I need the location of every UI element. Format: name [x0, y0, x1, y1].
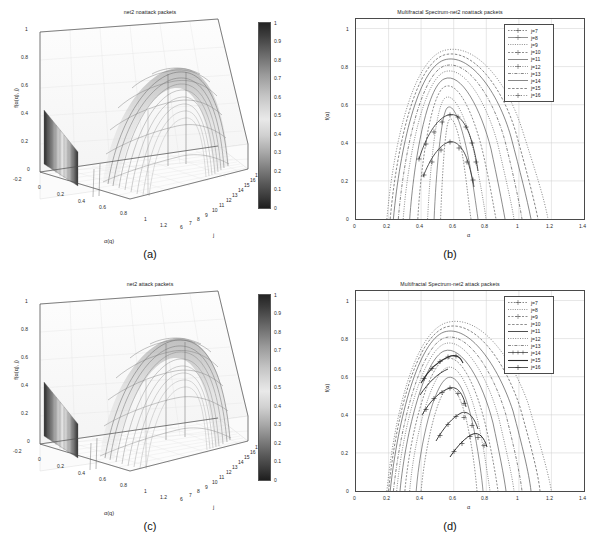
legend-line-sample-j13	[507, 342, 529, 349]
panel-a-ylabel: j	[213, 232, 214, 238]
legend-item-j7[interactable]: j=7	[507, 299, 551, 306]
legend-line-sample-j10	[507, 49, 529, 56]
legend-item-j11[interactable]: j=11	[507, 56, 551, 63]
legend-label-j14: j=14	[529, 350, 541, 356]
panel-b-xtick-1: 0.2	[383, 223, 390, 229]
panel-c-cbtick-4: 0.6	[274, 366, 281, 372]
legend-item-j7[interactable]: j=7	[507, 27, 551, 34]
panel-c-ytick-3: 9	[205, 484, 208, 490]
legend-line-sample-j7	[507, 27, 529, 34]
panel-b-xtick-5: 1	[516, 223, 519, 229]
panel-c-xtick-7: 1.2	[160, 494, 167, 500]
legend-item-j8[interactable]: j=8	[507, 34, 551, 41]
panel-a-cbtick-2: 0.8	[274, 57, 281, 63]
panel-d-ytick-1: 0.2	[341, 450, 348, 456]
panel-c-cbtick-10: 0	[274, 477, 277, 483]
panel-a-xlabel: α(q)	[104, 238, 114, 244]
panel-a-cbtick-3: 0.7	[274, 75, 281, 81]
panel-b-ytick-5: 1	[346, 26, 349, 32]
panel-d-xtick-0: 0	[353, 495, 356, 501]
panel-a-ytick-4: 10	[212, 207, 218, 213]
legend-line-sample-j15	[507, 85, 529, 92]
panel-c-ytick-2: 8	[197, 488, 200, 494]
panel-b: Multifractal Spectrum-net2 noattack pack…	[300, 0, 600, 272]
panel-b-xlabel: α	[467, 232, 470, 238]
legend-label-j9: j=9	[529, 314, 538, 320]
panel-b-xtick-6: 1.2	[546, 223, 553, 229]
panel-d-legend[interactable]: j=7 j=8 j=9	[504, 296, 554, 374]
legend-item-j13[interactable]: j=13	[507, 342, 551, 349]
panel-b-title: Multifractal Spectrum-net2 noattack pack…	[300, 9, 600, 15]
panel-a-surface-plot	[0, 14, 300, 244]
legend-label-j13: j=13	[529, 343, 541, 349]
figure-root: net2 noattack packets	[0, 0, 600, 545]
panel-d-axes: j=7 j=8 j=9	[355, 290, 585, 492]
panel-d-ytick-3: 0.6	[341, 374, 348, 380]
panel-d-ytick-4: 0.8	[341, 336, 348, 342]
panel-a-ytick-7: 13	[232, 192, 238, 198]
panel-a-ytick-9: 15	[244, 182, 250, 188]
panel-d-xtick-2: 0.4	[416, 495, 423, 501]
legend-item-j15[interactable]: j=15	[507, 357, 551, 364]
panel-c-xtick-5: 0.8	[120, 482, 127, 488]
panel-d-title: Multifractal Spectrum-net2 attack packet…	[300, 281, 600, 287]
panel-c-caption: (c)	[0, 520, 300, 532]
legend-line-sample-j9	[507, 313, 529, 320]
legend-item-j9[interactable]: j=9	[507, 41, 551, 48]
legend-item-j12[interactable]: j=12	[507, 335, 551, 342]
panel-c-ytick-7: 13	[232, 464, 238, 470]
legend-line-sample-j16	[507, 92, 529, 99]
panel-a-cbtick-4: 0.6	[274, 94, 281, 100]
panel-d-xlabel: α	[467, 504, 470, 510]
panel-c-xtick-2: 0.2	[57, 463, 64, 469]
legend-item-j13[interactable]: j=13	[507, 70, 551, 77]
panel-c-xtick-3: 0.4	[78, 470, 85, 476]
panel-a-ytick-8: 14	[238, 187, 244, 193]
legend-item-j12[interactable]: j=12	[507, 63, 551, 70]
panel-c-ztick-1: 0.2	[21, 410, 28, 416]
panel-b-legend[interactable]: j=7 j=8 j=9	[504, 24, 554, 102]
legend-item-j14[interactable]: j=14	[507, 77, 551, 84]
legend-item-j8[interactable]: j=8	[507, 306, 551, 313]
legend-item-j16[interactable]: j=16	[507, 364, 551, 371]
panel-a-cbtick-0: 1	[274, 20, 277, 26]
panel-a-ztick-4: 0.8	[21, 54, 28, 60]
legend-line-sample-j12	[507, 63, 529, 70]
panel-a-ytick-3: 9	[205, 212, 208, 218]
panel-c-xtick-0: -0.2	[13, 448, 22, 454]
panel-a-cbtick-6: 0.4	[274, 131, 281, 137]
legend-label-j9: j=9	[529, 42, 538, 48]
legend-line-sample-j15	[507, 357, 529, 364]
panel-c-cbtick-6: 0.4	[274, 403, 281, 409]
legend-label-j13: j=13	[529, 71, 541, 77]
panel-a-xtick-4: 0.6	[99, 204, 106, 210]
legend-item-j16[interactable]: j=16	[507, 92, 551, 99]
legend-item-j10[interactable]: j=10	[507, 49, 551, 56]
legend-line-sample-j7	[507, 299, 529, 306]
legend-label-j14: j=14	[529, 78, 541, 84]
legend-item-j9[interactable]: j=9	[507, 313, 551, 320]
legend-label-j8: j=8	[529, 307, 538, 313]
legend-item-j14[interactable]: j=14	[507, 349, 551, 356]
panel-c-cbtick-5: 0.5	[274, 384, 281, 390]
panel-c-cbtick-8: 0.2	[274, 440, 281, 446]
legend-label-j12: j=12	[529, 336, 541, 342]
panel-a-xtick-3: 0.4	[78, 198, 85, 204]
legend-item-j11[interactable]: j=11	[507, 328, 551, 335]
panel-c-surface-plot	[0, 286, 300, 516]
panel-b-xtick-4: 0.8	[481, 223, 488, 229]
legend-line-sample-j12	[507, 335, 529, 342]
panel-a-ytick-2: 8	[197, 216, 200, 222]
panel-c-ztick-2: 0.4	[21, 382, 28, 388]
panel-a-ytick-5: 11	[219, 202, 224, 208]
legend-item-j10[interactable]: j=10	[507, 321, 551, 328]
legend-item-j15[interactable]: j=15	[507, 85, 551, 92]
panel-d-xtick-4: 0.8	[481, 495, 488, 501]
panel-a-cbtick-9: 0.1	[274, 186, 281, 192]
legend-line-sample-j14	[507, 349, 529, 356]
panel-a-xtick-0: -0.2	[13, 176, 22, 182]
panel-a-zlabel: f(α(q), j)	[13, 78, 19, 118]
panel-a-caption: (a)	[0, 248, 300, 260]
panel-c: net2 attack packets	[0, 272, 300, 545]
panel-a-ztick-0: 0	[27, 166, 30, 172]
